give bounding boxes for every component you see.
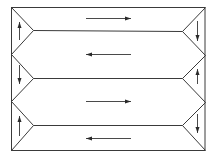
- left-flow-arrow-down-icon: [18, 65, 22, 84]
- right-diagonal-lower: [183, 126, 206, 151]
- flow-arrow-right-icon: [86, 100, 131, 104]
- right-diagonal-upper: [183, 8, 206, 32]
- channel-partition: [34, 31, 183, 32]
- right-flow-arrow-down-icon: [196, 21, 200, 41]
- right-diagonal-upper: [183, 103, 206, 126]
- left-diagonal-lower: [12, 79, 34, 102]
- left-diagonal-lower: [12, 31, 34, 55]
- right-diagonal-lower: [183, 79, 206, 103]
- flow-arrow-left-icon: [86, 53, 131, 57]
- left-flow-arrow-up-icon: [18, 116, 22, 136]
- right-diagonal-upper: [183, 56, 206, 79]
- serpentine-flow-diagram: [0, 0, 216, 157]
- left-diagonal-lower: [12, 126, 34, 151]
- left-diagonal-upper: [12, 102, 34, 126]
- right-flow-arrow-down-icon: [196, 114, 200, 133]
- left-flow-arrow-up-icon: [18, 22, 22, 40]
- flow-arrow-left-icon: [86, 137, 131, 141]
- flow-arrow-right-icon: [86, 17, 131, 21]
- left-diagonal-upper: [12, 8, 34, 31]
- right-flow-arrow-up-icon: [196, 69, 200, 84]
- channel-edges: [12, 8, 206, 151]
- left-diagonal-upper: [12, 55, 34, 79]
- right-diagonal-lower: [183, 32, 206, 56]
